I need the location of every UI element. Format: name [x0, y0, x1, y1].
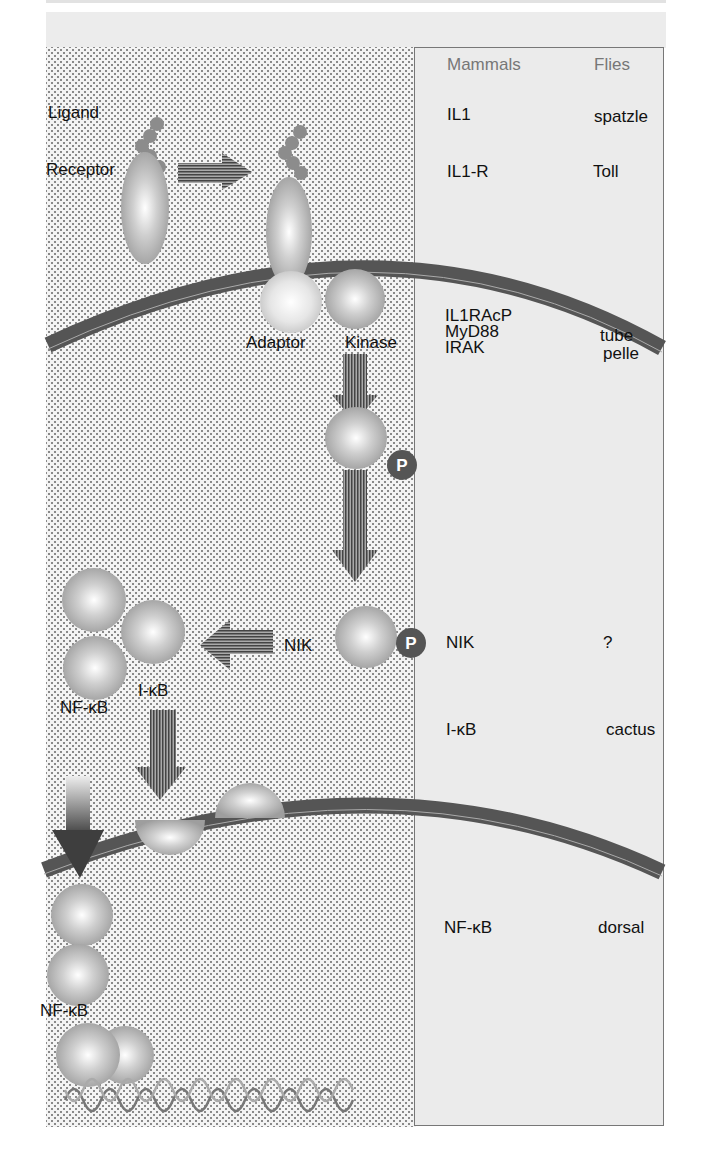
phosphate-label: P [405, 634, 416, 653]
row-flies: spatzle [594, 107, 648, 126]
nfkb-subunit-icon [62, 568, 126, 632]
kinase-icon [325, 269, 385, 329]
row-mammals: NIK [446, 633, 474, 652]
adaptor-icon [260, 271, 322, 333]
row-mammals: IL1 [447, 105, 471, 124]
receptor-icon [121, 152, 169, 264]
degraded-ikb-icon [135, 820, 205, 855]
dna-helix-icon [65, 1079, 353, 1111]
row-mammals: I-κB [446, 720, 476, 739]
row-flies-tube: tube [600, 326, 633, 345]
row-mammals-irak: IRAK [445, 338, 485, 357]
nfkb-complex-label: NF-κB [60, 698, 108, 718]
row-flies: cactus [606, 720, 655, 739]
row-flies: Toll [593, 162, 619, 181]
header-mammals: Mammals [447, 55, 521, 75]
row-mammals: IL1-R [447, 162, 489, 181]
degraded-ikb-icon [215, 783, 285, 818]
row-flies: ? [603, 633, 612, 652]
nfkb-nuclear-label: NF-κB [40, 1001, 88, 1021]
row-mammals: NF-κB [444, 918, 492, 937]
row-flies: dorsal [598, 918, 644, 937]
bound-ligand-icon [278, 125, 308, 180]
nik-icon [335, 606, 397, 668]
down-arrow-icon [332, 470, 378, 582]
header-flies: Flies [594, 55, 630, 75]
nfkb-subunit-icon [63, 636, 127, 700]
nuclear-nfkb-subunit-icon [51, 884, 113, 946]
nuclear-nfkb-subunit-icon [47, 944, 109, 1006]
ikb-label: I-κB [138, 681, 168, 701]
dna-bound-nfkb-icon [56, 1023, 120, 1087]
binding-arrow-icon [178, 153, 252, 190]
kinase-label: Kinase [345, 333, 397, 353]
phospho-kinase-icon [325, 407, 387, 469]
bound-receptor-icon [266, 177, 312, 287]
nuclear-membrane [44, 805, 662, 876]
phosphate-label: P [396, 456, 407, 475]
ikb-icon [121, 600, 185, 664]
nik-label: NIK [284, 636, 312, 656]
ligand-label: Ligand [48, 103, 99, 123]
receptor-label: Receptor [46, 160, 115, 180]
row-flies-pelle: pelle [603, 344, 639, 363]
down-arrow-icon [135, 710, 186, 800]
adaptor-label: Adaptor [246, 333, 306, 353]
left-arrow-icon [200, 620, 273, 670]
